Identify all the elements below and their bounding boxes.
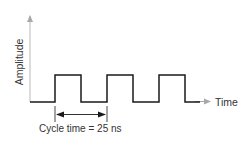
square-wave-signal bbox=[30, 75, 200, 102]
square-wave-diagram: Amplitude Time Cycle time = 25 ns bbox=[0, 0, 250, 148]
x-axis-label: Time bbox=[215, 96, 238, 108]
cycle-time-annotation: Cycle time = 25 ns bbox=[39, 123, 122, 134]
y-axis-label: Amplitude bbox=[13, 39, 25, 86]
